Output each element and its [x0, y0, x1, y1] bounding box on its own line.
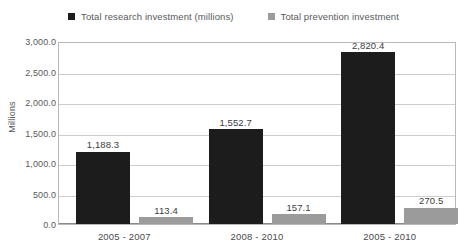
y-tick-2500: 2,500.0 [4, 68, 56, 78]
bar-label-prevention-2005-2010: 270.5 [404, 195, 458, 206]
chart-legend: Total research investment (millions) Tot… [0, 6, 467, 26]
plot-area: 1,188.3 113.4 1,552.7 157.1 2,820.4 270.… [58, 42, 456, 225]
bar-prevention-2005-2010[interactable] [404, 208, 458, 225]
y-tick-2000: 2,000.0 [4, 98, 56, 108]
legend-swatch-prevention-icon [268, 13, 275, 20]
bar-group-2005-2010: 2,820.4 270.5 [324, 43, 457, 224]
bar-group-2005-2007: 1,188.3 113.4 [59, 43, 192, 224]
x-tick-2005-2007: 2005 - 2007 [58, 231, 191, 247]
y-tick-500: 500.0 [4, 190, 56, 200]
bar-prevention-2008-2010[interactable] [272, 214, 326, 224]
legend-label-research: Total research investment (millions) [81, 11, 233, 22]
legend-label-prevention: Total prevention investment [281, 11, 399, 22]
bar-label-prevention-2008-2010: 157.1 [272, 202, 326, 213]
legend-swatch-research-icon [68, 13, 75, 20]
bar-label-research-2005-2007: 1,188.3 [76, 139, 130, 150]
y-tick-1500: 1,500.0 [4, 129, 56, 139]
bar-group-2008-2010: 1,552.7 157.1 [192, 43, 325, 224]
x-tick-2008-2010: 2008 - 2010 [191, 231, 324, 247]
bar-research-2008-2010[interactable] [209, 129, 263, 224]
y-tick-1000: 1,000.0 [4, 159, 56, 169]
y-tick-0: 0.0 [4, 220, 56, 230]
bar-label-prevention-2005-2007: 113.4 [139, 205, 193, 216]
bar-label-research-2008-2010: 1,552.7 [209, 117, 263, 128]
x-tick-2005-2010: 2005 - 2010 [323, 231, 456, 247]
bar-label-research-2005-2010: 2,820.4 [341, 40, 395, 51]
legend-item-prevention: Total prevention investment [268, 11, 399, 22]
y-axis-tick-labels: 3,000.0 2,500.0 2,000.0 1,500.0 1,000.0 … [0, 42, 56, 225]
x-axis-tick-labels: 2005 - 2007 2008 - 2010 2005 - 2010 [58, 231, 456, 247]
legend-item-research: Total research investment (millions) [68, 11, 233, 22]
bar-prevention-2005-2007[interactable] [139, 217, 193, 224]
bar-research-2005-2007[interactable] [76, 152, 130, 225]
y-tick-3000: 3,000.0 [4, 37, 56, 47]
bar-research-2005-2010[interactable] [341, 52, 395, 224]
